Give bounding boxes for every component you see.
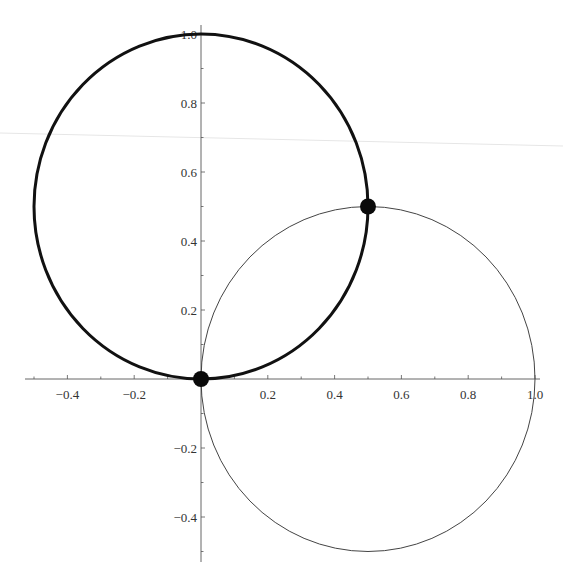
axes: −0.4−0.20.20.40.60.81.0 1.00.80.60.40.2−… — [25, 25, 543, 562]
chart-canvas: −0.4−0.20.20.40.60.81.0 1.00.80.60.40.2−… — [0, 0, 563, 577]
y-tick-label: −0.4 — [173, 510, 197, 525]
y-tick-label: 0.6 — [181, 165, 198, 180]
x-ticks — [34, 375, 535, 379]
y-tick-label: 0.2 — [181, 303, 197, 318]
x-tick-label: 0.2 — [260, 387, 276, 402]
intersection-points — [193, 199, 376, 388]
y-tick-label: −0.2 — [173, 441, 197, 456]
scan-artifact-line — [0, 133, 563, 146]
x-tick-label: 0.6 — [393, 387, 410, 402]
y-tick-label: 0.4 — [181, 234, 198, 249]
y-tick-labels: 1.00.80.60.40.2−0.2−0.4 — [173, 27, 197, 525]
x-tick-label: 0.4 — [326, 387, 343, 402]
x-tick-label: −0.2 — [122, 387, 146, 402]
x-tick-label: −0.4 — [56, 387, 80, 402]
x-tick-label: 0.8 — [460, 387, 476, 402]
point-marker-intersection-origin — [193, 371, 209, 387]
curves — [34, 34, 535, 552]
y-ticks — [201, 34, 205, 552]
x-tick-labels: −0.4−0.20.20.40.60.81.0 — [56, 387, 544, 402]
point-marker-intersection-upper — [360, 199, 376, 215]
y-tick-label: 0.8 — [181, 96, 197, 111]
